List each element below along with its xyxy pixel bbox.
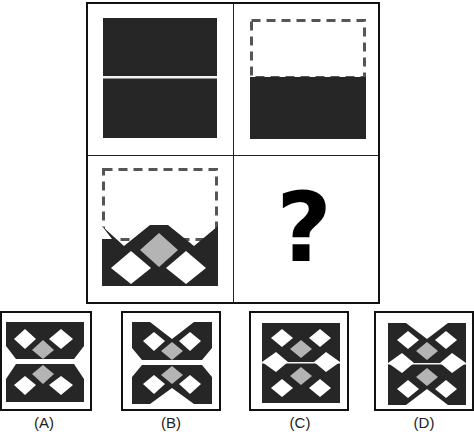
cell-4: ? xyxy=(262,178,346,278)
option-a-figure xyxy=(6,322,84,402)
white-split-line xyxy=(103,76,217,79)
option-d[interactable] xyxy=(374,311,474,411)
option-d-label: (D) xyxy=(394,414,454,431)
option-b-label: (B) xyxy=(141,414,201,431)
dashed-outline xyxy=(252,21,365,78)
cell-3-figure xyxy=(102,168,218,287)
option-c[interactable] xyxy=(249,311,349,411)
dark-lower-half xyxy=(250,77,366,139)
option-d-figure xyxy=(388,323,466,405)
option-a-label: (A) xyxy=(14,414,74,431)
question-mark-icon: ? xyxy=(276,180,332,276)
option-b-figure xyxy=(132,322,212,404)
option-c-figure xyxy=(262,323,340,403)
cell-2-figure xyxy=(250,19,366,139)
cell-1-figure xyxy=(103,18,217,138)
grid-divider-vertical xyxy=(233,4,234,302)
option-c-label: (C) xyxy=(270,414,330,431)
grid-divider-horizontal xyxy=(88,155,378,156)
option-b[interactable] xyxy=(121,311,221,411)
option-a[interactable] xyxy=(0,311,92,411)
